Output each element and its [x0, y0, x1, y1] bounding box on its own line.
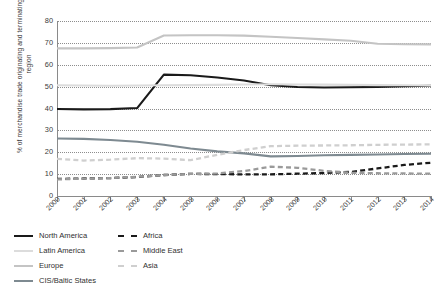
plot-area: 01020304050607080 2000200120022003200420… [57, 21, 431, 196]
legend-swatch [14, 265, 33, 267]
chart-figure: % of merchandise trade originating and t… [0, 0, 445, 293]
x-axis-tick-label: 2008 [258, 195, 276, 213]
series-line-europe [57, 35, 431, 48]
y-axis-tick-label: 40 [45, 104, 53, 113]
legend-item-africa[interactable]: Africa [118, 228, 183, 243]
legend-label: Middle East [143, 246, 183, 255]
legend-column: AfricaMiddle EastAsia [118, 228, 183, 288]
x-axis-tick-label: 2010 [311, 195, 329, 213]
legend-column: North AmericaLatin AmericaEuropeCIS/Balt… [14, 228, 118, 288]
x-axis-tick-label: 2002 [97, 195, 115, 213]
legend-swatch [14, 250, 33, 252]
series-line-africa [57, 163, 431, 179]
legend-swatch [14, 235, 33, 237]
legend-swatch [118, 250, 137, 252]
x-axis-tick-label: 2011 [338, 195, 355, 212]
legend-label: North America [39, 231, 87, 240]
series-line-north-america [57, 75, 431, 110]
x-axis-tick-label: 2009 [284, 195, 302, 213]
series-lines [57, 21, 431, 196]
legend-label: Latin America [39, 246, 85, 255]
y-axis-tick-label: 70 [45, 38, 53, 47]
x-axis-tick-label: 2014 [418, 195, 436, 213]
series-line-cis-baltic-states [57, 138, 431, 156]
legend-label: Europe [39, 261, 64, 270]
legend-label: Asia [143, 261, 158, 270]
legend-swatch [118, 235, 137, 237]
x-axis-tick-label: 2000 [44, 195, 62, 213]
x-axis-tick-label: 2012 [365, 195, 383, 213]
legend-item-middle-east[interactable]: Middle East [118, 243, 183, 258]
series-line-middle-east [57, 167, 431, 180]
y-axis-tick-label: 80 [45, 16, 53, 25]
chart-legend: North AmericaLatin AmericaEuropeCIS/Balt… [14, 228, 434, 288]
x-axis-tick-label: 2003 [124, 195, 142, 213]
x-axis-tick-label: 2001 [71, 195, 89, 213]
series-line-latin-america [57, 84, 431, 86]
legend-item-europe[interactable]: Europe [14, 258, 118, 273]
legend-swatch [14, 280, 33, 282]
y-axis-tick-label: 50 [45, 82, 53, 91]
legend-item-asia[interactable]: Asia [118, 258, 183, 273]
legend-label: CIS/Baltic States [39, 276, 96, 285]
legend-item-cis-baltic-states[interactable]: CIS/Baltic States [14, 273, 118, 288]
y-axis-tick-label: 60 [45, 60, 53, 69]
legend-label: Africa [143, 231, 162, 240]
x-axis-tick-label: 2013 [391, 195, 409, 213]
x-axis-tick-label: 2005 [178, 195, 196, 213]
x-axis-tick-label: 2006 [204, 195, 222, 213]
y-axis-tick-label: 30 [45, 125, 53, 134]
x-axis-tick-label: 2004 [151, 195, 169, 213]
y-axis-tick-label: 10 [45, 169, 53, 178]
y-axis-tick-label: 20 [45, 147, 53, 156]
legend-swatch [118, 265, 137, 267]
x-axis-tick-label: 2007 [231, 195, 249, 213]
y-axis-label: % of merchandise trade originating and t… [15, 0, 33, 154]
legend-item-latin-america[interactable]: Latin America [14, 243, 118, 258]
legend-item-north-america[interactable]: North America [14, 228, 118, 243]
